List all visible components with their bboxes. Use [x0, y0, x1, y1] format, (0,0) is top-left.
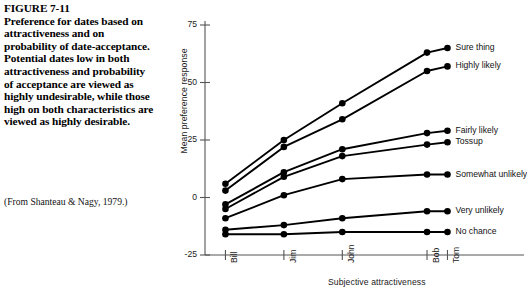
- data-point: [281, 192, 288, 199]
- data-point: [444, 171, 451, 178]
- x-axis-label: Subjective attractiveness: [328, 277, 426, 287]
- figure-number: FIGURE 7-11: [4, 2, 154, 15]
- data-point: [339, 229, 346, 236]
- data-point: [424, 208, 431, 215]
- series-label-somewhat-unlikely: Somewhat unlikely: [455, 169, 527, 179]
- data-point: [444, 128, 451, 135]
- series-label-tossup: Tossup: [455, 136, 482, 146]
- data-point: [444, 208, 451, 215]
- y-axis-label: Mean preference response: [179, 31, 189, 171]
- x-tick-bob: Bob: [431, 248, 441, 263]
- figure-caption-text: Preference for dates based on attractive…: [4, 15, 154, 128]
- x-tick-tom: Tom: [451, 247, 461, 263]
- data-point: [281, 174, 288, 181]
- data-point: [424, 68, 431, 75]
- data-point: [339, 116, 346, 123]
- data-point: [339, 215, 346, 222]
- data-point: [222, 215, 229, 222]
- data-point: [444, 45, 451, 52]
- figure-caption-block: FIGURE 7-11 Preference for dates based o…: [4, 2, 154, 128]
- series-label-fairly-likely: Fairly likely: [455, 125, 498, 135]
- data-point: [424, 130, 431, 137]
- y-tick-3: 50: [171, 77, 197, 87]
- data-point: [424, 49, 431, 56]
- x-tick-jim: Jim: [288, 250, 298, 263]
- data-point: [281, 144, 288, 151]
- data-point: [339, 153, 346, 160]
- data-point: [424, 229, 431, 236]
- chart-container: Mean preference response Subjective attr…: [160, 0, 524, 294]
- series-label-no-chance: No chance: [455, 226, 496, 236]
- y-tick-0: -25: [171, 249, 197, 259]
- data-point: [444, 139, 451, 146]
- data-point: [339, 176, 346, 183]
- x-tick-bill: Bill: [229, 252, 239, 263]
- data-point: [222, 206, 229, 213]
- data-point: [424, 171, 431, 178]
- series-label-very-unlikely: Very unlikely: [455, 205, 503, 215]
- y-tick-4: 75: [171, 19, 197, 29]
- series-label-highly-likely: Highly likely: [455, 60, 500, 70]
- data-point: [222, 180, 229, 187]
- data-point: [281, 231, 288, 238]
- data-point: [281, 222, 288, 229]
- data-point: [444, 63, 451, 70]
- data-point: [222, 187, 229, 194]
- x-tick-john: John: [346, 244, 356, 263]
- data-point: [281, 137, 288, 144]
- y-tick-1: 0: [171, 192, 197, 202]
- data-point: [339, 100, 346, 107]
- data-point: [444, 229, 451, 236]
- y-tick-2: 25: [171, 134, 197, 144]
- series-label-sure-thing: Sure thing: [455, 42, 494, 52]
- data-point: [424, 141, 431, 148]
- data-point: [339, 146, 346, 153]
- data-point: [222, 231, 229, 238]
- figure-source: (From Shanteau & Nagy, 1979.): [4, 196, 174, 207]
